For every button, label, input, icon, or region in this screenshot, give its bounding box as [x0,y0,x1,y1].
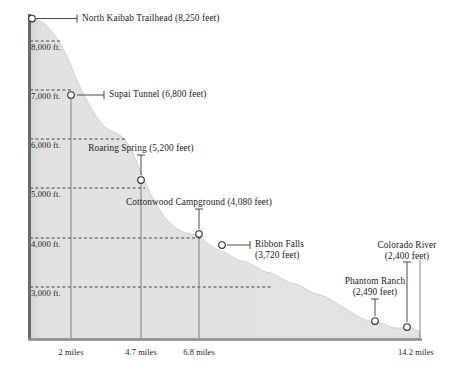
x-tick-label-4-7-miles: 4.7 miles [111,348,171,357]
x-tick-label-14-2-miles: 14.2 miles [386,348,446,357]
y-tick-label-4000: 4,000 ft. [31,239,61,249]
point-label-roaring-spring: Roaring Spring (5,200 feet) [61,143,221,154]
marker-north-kaibab-trailhead [29,15,36,22]
point-label-supai-tunnel: Supai Tunnel (6,800 feet) [109,89,207,100]
point-label-phantom-ranch: Phantom Ranch [311,276,439,287]
marker-supai-tunnel [68,92,75,99]
marker-ribbon-falls [219,242,226,249]
marker-colorado-river [404,324,411,331]
marker-roaring-spring [138,177,145,184]
point-sublabel-ribbon-falls: (3,720 feet) [255,250,300,261]
x-tick-label-6-8-miles: 6.8 miles [169,348,229,357]
marker-phantom-ranch [372,318,379,325]
point-label-ribbon-falls: Ribbon Falls [255,239,304,250]
point-sublabel-colorado-river: (2,400 feet) [352,251,456,262]
y-tick-label-8000: 8,000 ft. [31,42,61,52]
y-tick-label-5000: 5,000 ft. [31,189,61,199]
point-label-cottonwood-campground: Cottonwood Campground (4,080 feet) [94,197,304,208]
elevation-profile-chart: 8,000 ft. 7,000 ft. 6,000 ft. 5,000 ft. … [0,0,456,381]
chart-canvas [0,0,456,381]
y-tick-label-7000: 7,000 ft. [31,91,61,101]
y-tick-label-6000: 6,000 ft. [31,140,61,150]
point-label-north-kaibab-trailhead: North Kaibab Trailhead (8,250 feet) [82,13,220,24]
point-sublabel-phantom-ranch: (2,490 feet) [311,287,439,298]
marker-cottonwood-campground [196,231,203,238]
point-label-colorado-river: Colorado River [352,240,456,251]
x-tick-label-2-miles: 2 miles [41,348,101,357]
y-tick-label-3000: 3,000 ft. [31,288,61,298]
